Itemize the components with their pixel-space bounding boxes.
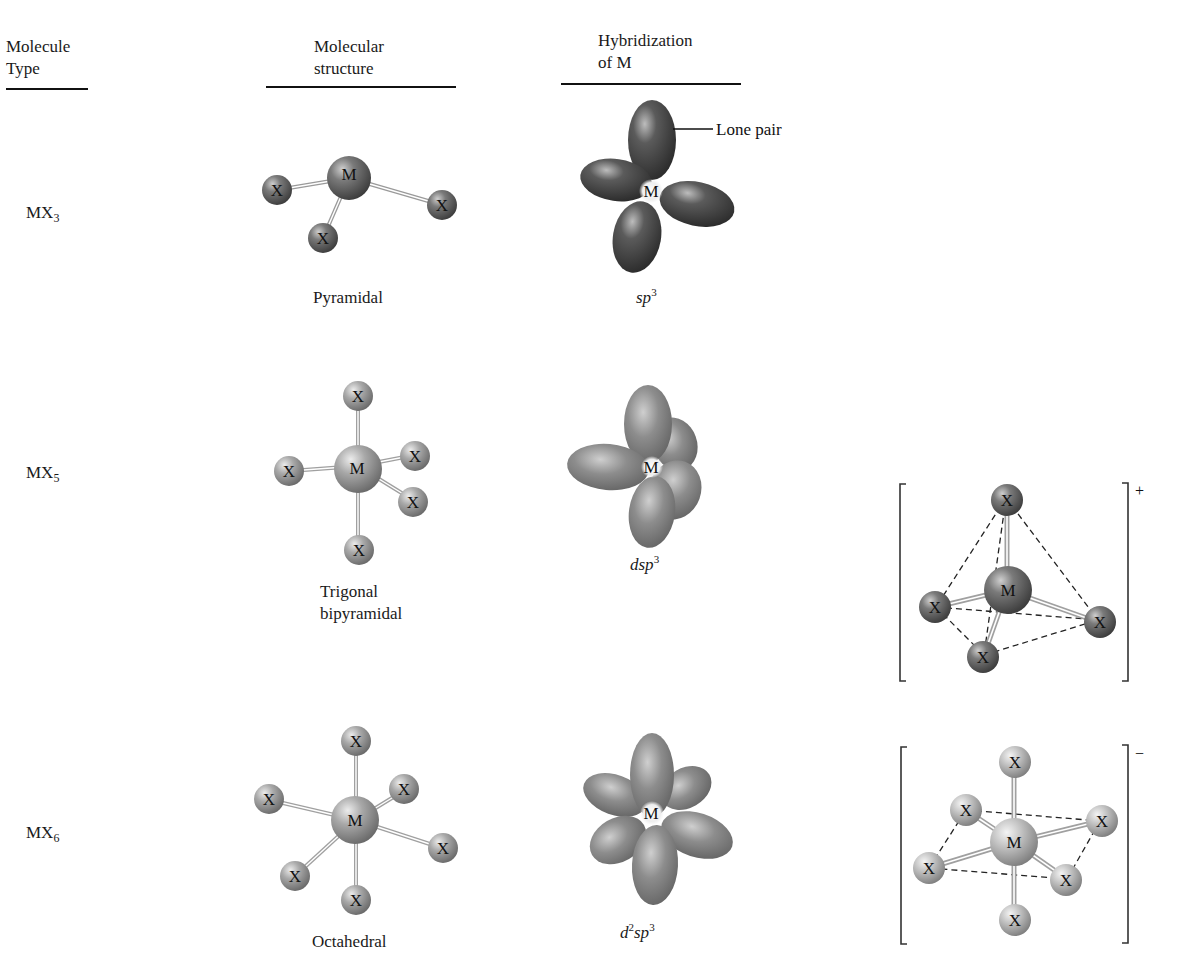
bracket-left xyxy=(901,747,907,944)
svg-text:X: X xyxy=(1009,753,1021,772)
ligand-atom: X xyxy=(1050,864,1082,896)
svg-text:X: X xyxy=(1060,871,1072,890)
svg-text:X: X xyxy=(923,859,935,878)
svg-text:X: X xyxy=(1009,911,1021,930)
svg-text:M: M xyxy=(1006,833,1021,852)
ligand-atom: X xyxy=(1086,805,1118,837)
ligand-atom: X xyxy=(913,852,945,884)
ion-charge-minus: − xyxy=(1135,745,1144,762)
central-atom: M xyxy=(990,818,1038,866)
svg-text:X: X xyxy=(960,801,972,820)
ligand-atom: X xyxy=(999,746,1031,778)
ligand-atom: X xyxy=(999,904,1031,936)
ligand-atom: X xyxy=(950,794,982,826)
svg-text:X: X xyxy=(1096,812,1108,831)
bracket-right xyxy=(1122,745,1128,943)
octahedral-ion-diagram: − X X X M X X X xyxy=(0,0,1181,968)
